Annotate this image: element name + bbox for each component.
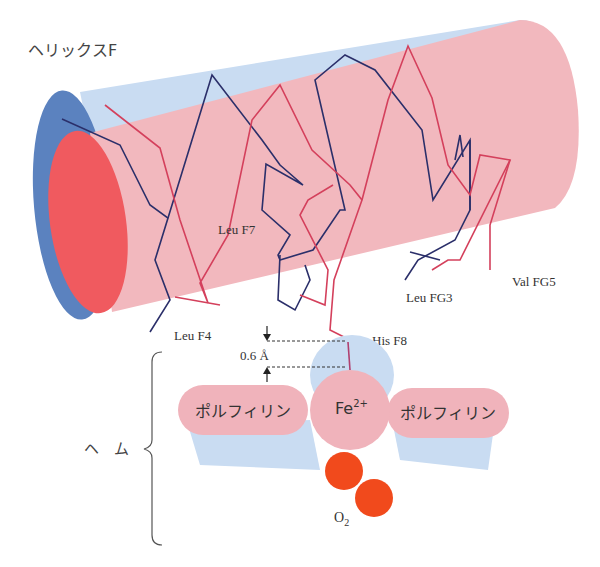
label-helix-f: ヘリックスF: [28, 41, 117, 60]
label-leu-f7: Leu F7: [218, 222, 256, 237]
helix-cylinder: [24, 20, 579, 323]
brace-icon: [144, 352, 162, 545]
label-porphyrin-right: ポルフィリン: [400, 404, 496, 423]
oxygen-atom-2: [355, 479, 393, 517]
backbone-chain-dark-5: [410, 252, 440, 260]
backbone-chain-red-4: [175, 297, 220, 305]
arrow-down-icon: [263, 334, 271, 341]
heme-brace: ヘ ム: [84, 352, 162, 545]
hemoglobin-diagram: ヘリックスF Leu F7 Leu F4 Leu FG3 Val FG5 His…: [0, 0, 600, 567]
label-leu-f4: Leu F4: [174, 328, 212, 343]
label-o2: O2: [334, 510, 349, 528]
oxygen-molecule: O2: [325, 452, 393, 528]
label-heme: ヘ ム: [84, 440, 129, 458]
label-val-fg5: Val FG5: [512, 274, 556, 289]
label-distance: 0.6 Å: [240, 348, 270, 363]
arrow-up-icon: [263, 367, 271, 374]
label-porphyrin-left: ポルフィリン: [195, 402, 291, 421]
oxygen-atom-1: [325, 452, 363, 490]
heme-group: ポルフィリン ポルフィリン Fe2+: [178, 335, 509, 470]
label-leu-fg3: Leu FG3: [406, 290, 453, 305]
